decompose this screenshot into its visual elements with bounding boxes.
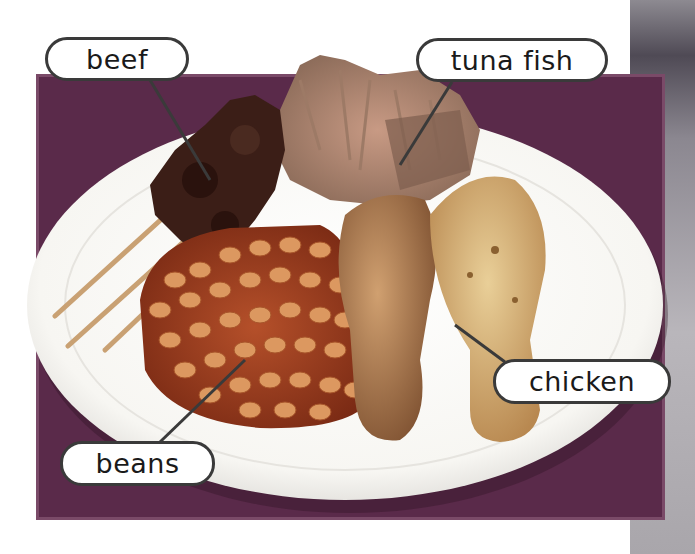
baked-beans (140, 225, 370, 428)
label-chicken: chicken (493, 359, 671, 404)
label-tuna-fish: tuna fish (416, 38, 608, 82)
label-beans: beans (60, 441, 215, 486)
label-beef: beef (45, 37, 189, 81)
